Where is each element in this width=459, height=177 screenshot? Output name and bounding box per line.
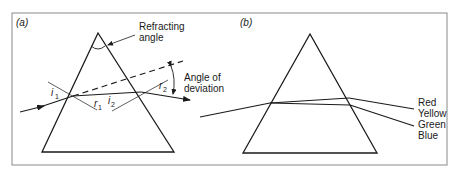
- angle-label-i2: i 2: [108, 95, 115, 108]
- prism-refraction-figure: (a) Refracting angle Angle of: [0, 0, 459, 177]
- panel-a: (a) Refracting angle Angle of: [16, 17, 224, 152]
- spectrum-label-yellow: Yellow: [418, 108, 447, 119]
- svg-text:i: i: [51, 87, 54, 98]
- svg-text:1: 1: [55, 93, 59, 100]
- spectrum-label-blue: Blue: [418, 130, 438, 141]
- internal-ray-blue: [270, 103, 350, 105]
- svg-text:2: 2: [163, 86, 167, 93]
- refracting-angle-leader: [108, 35, 135, 45]
- prism-a: [42, 33, 174, 152]
- refracting-angle-label-2: angle: [139, 32, 164, 43]
- prism-b: [243, 34, 377, 153]
- angle-label-r2: r 2: [159, 80, 167, 93]
- deviation-angle-arrow: [171, 66, 174, 94]
- panel-a-label: (a): [16, 17, 28, 28]
- refracting-angle-label-1: Refracting: [139, 21, 185, 32]
- figure-frame: [12, 13, 447, 165]
- spectrum-label-green: Green: [418, 119, 446, 130]
- figure-canvas: (a) Refracting angle Angle of: [0, 0, 459, 177]
- deviation-label-2: deviation: [184, 83, 224, 94]
- angle-label-i1: i 1: [51, 87, 59, 100]
- deviation-label-1: Angle of: [184, 72, 221, 83]
- internal-ray-red: [270, 98, 349, 103]
- refracting-angle-arc: [91, 46, 105, 49]
- panel-b-label: (b): [240, 17, 252, 28]
- spectrum-label-red: Red: [418, 97, 436, 108]
- emergent-ray: [141, 92, 190, 100]
- white-light-ray: [200, 103, 270, 117]
- svg-text:2: 2: [111, 101, 115, 108]
- svg-text:1: 1: [98, 104, 102, 111]
- panel-b: (b) Red Yellow Green Blue: [200, 17, 447, 153]
